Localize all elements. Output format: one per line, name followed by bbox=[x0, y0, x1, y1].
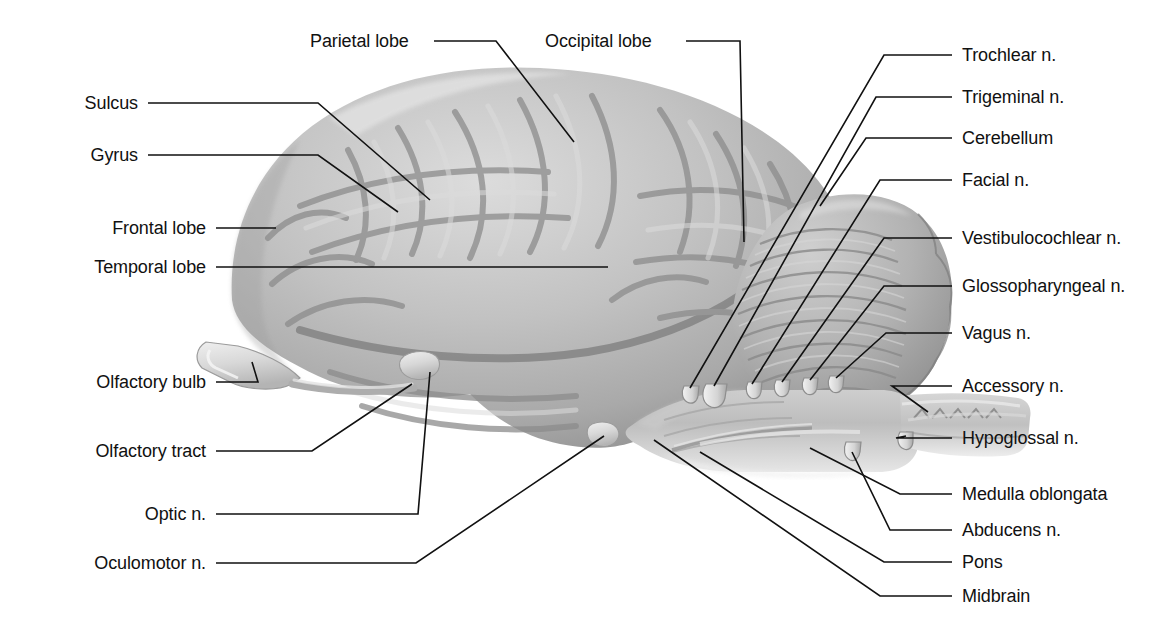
label-sulcus: Sulcus bbox=[85, 94, 138, 112]
label-occipital-lobe: Occipital lobe bbox=[545, 32, 652, 50]
label-vestibulocochlear-n: Vestibulocochlear n. bbox=[962, 229, 1121, 247]
label-frontal-lobe: Frontal lobe bbox=[112, 219, 206, 237]
label-temporal-lobe: Temporal lobe bbox=[94, 258, 206, 276]
optic-chiasm-stub bbox=[400, 352, 440, 380]
label-gyrus: Gyrus bbox=[90, 146, 138, 164]
label-abducens-n: Abducens n. bbox=[962, 521, 1061, 539]
label-midbrain: Midbrain bbox=[962, 587, 1030, 605]
label-trochlear-n: Trochlear n. bbox=[962, 46, 1056, 64]
label-trigeminal-n: Trigeminal n. bbox=[962, 88, 1064, 106]
label-glossopharyngeal-n: Glossopharyngeal n. bbox=[962, 277, 1125, 295]
label-parietal-lobe: Parietal lobe bbox=[310, 32, 409, 50]
label-hypoglossal-n: Hypoglossal n. bbox=[962, 429, 1079, 447]
label-vagus-n: Vagus n. bbox=[962, 324, 1031, 342]
leader-oculomotor-n bbox=[216, 436, 604, 563]
label-olfactory-tract: Olfactory tract bbox=[95, 442, 206, 460]
label-olfactory-bulb: Olfactory bulb bbox=[96, 373, 206, 391]
oculomotor-stub bbox=[587, 422, 619, 447]
label-oculomotor-n: Oculomotor n. bbox=[94, 554, 206, 572]
label-accessory-n: Accessory n. bbox=[962, 377, 1064, 395]
label-facial-n: Facial n. bbox=[962, 171, 1029, 189]
label-medulla-oblongata: Medulla oblongata bbox=[962, 485, 1107, 503]
label-cerebellum: Cerebellum bbox=[962, 129, 1053, 147]
label-pons: Pons bbox=[962, 553, 1003, 571]
label-optic-n: Optic n. bbox=[145, 505, 206, 523]
brain-anatomy-figure: Sulcus Gyrus Frontal lobe Temporal lobe … bbox=[0, 0, 1170, 633]
